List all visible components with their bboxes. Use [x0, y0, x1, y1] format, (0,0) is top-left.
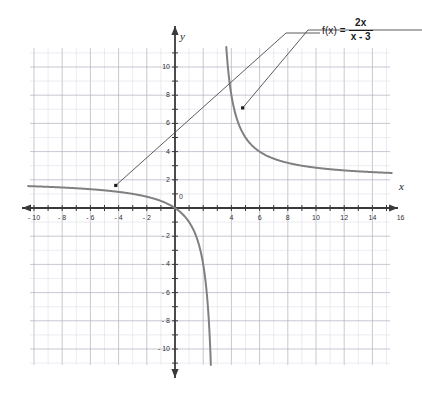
function-label-denominator: x - 3	[349, 30, 373, 43]
y-tick-label: 4	[153, 148, 170, 155]
y-tick-label: 6	[153, 119, 170, 126]
x-tick-label: - 2	[139, 214, 155, 221]
y-tick-label: - 8	[153, 317, 170, 324]
x-tick-label: - 10	[26, 214, 42, 221]
y-tick-label: 2	[153, 176, 170, 183]
y-axis-label: y	[180, 30, 185, 42]
x-tick-label: 14	[364, 214, 380, 221]
y-tick-label: - 10	[153, 345, 170, 352]
coordinate-plane-svg	[0, 0, 422, 394]
x-tick-label: 16	[393, 214, 409, 221]
grid-lines	[30, 48, 390, 365]
function-label-lhs: f(x) =	[322, 25, 346, 36]
origin-label: 0	[179, 193, 183, 200]
function-label-fraction: 2x x - 3	[349, 18, 373, 42]
graph-figure: f(x) = 2x x - 3 y x - 10- 8- 6- 4- 24681…	[0, 0, 422, 394]
x-tick-label: - 4	[111, 214, 127, 221]
x-tick-label: - 8	[54, 214, 70, 221]
x-tick-label: 12	[336, 214, 352, 221]
annotation-leader-lines	[114, 30, 422, 187]
x-tick-label: 4	[223, 214, 239, 221]
x-tick-label: - 6	[82, 214, 98, 221]
y-tick-label: - 6	[153, 289, 170, 296]
function-label-numerator: 2x	[353, 18, 368, 30]
x-tick-label: 10	[308, 214, 324, 221]
y-tick-label: - 4	[153, 260, 170, 267]
y-tick-label: - 2	[153, 232, 170, 239]
x-axis-label: x	[399, 180, 404, 192]
y-tick-label: 8	[153, 91, 170, 98]
y-tick-label: 10	[153, 63, 170, 70]
function-curve	[28, 47, 392, 365]
x-tick-label: 8	[280, 214, 296, 221]
function-label: f(x) = 2x x - 3	[322, 18, 373, 42]
x-tick-label: 6	[252, 214, 268, 221]
